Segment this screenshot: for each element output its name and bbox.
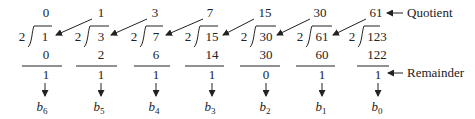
division-bracket: [84, 26, 109, 47]
carry-arrow-icon: [223, 19, 254, 35]
divisor: 2: [75, 29, 82, 44]
remainder: 1: [209, 67, 216, 82]
quotient: 0: [43, 5, 50, 20]
dividend: 7: [153, 29, 160, 44]
division-step-4: 15 2 30 30 0 b2: [240, 5, 280, 116]
bit-label: b3: [205, 99, 217, 116]
division-bracket: [28, 26, 52, 47]
binary-division-diagram: 0 2 1 0 1 b6 1 2 3 2 1 b5 3 2 7 6 1 b4 7…: [0, 0, 475, 119]
dividend: 30: [260, 29, 273, 44]
product: 6: [153, 47, 160, 62]
carry-arrow-icon: [277, 19, 310, 35]
bit-label: b1: [316, 99, 327, 116]
divisor: 2: [185, 29, 192, 44]
quotient: 15: [259, 5, 272, 20]
dividend: 61: [316, 29, 329, 44]
bit-label: b2: [260, 99, 271, 116]
quotient-label: Quotient: [407, 5, 453, 20]
remainder: 1: [319, 67, 326, 82]
divisor: 2: [297, 29, 304, 44]
division-step-2: 3 2 7 6 1 b4: [131, 5, 170, 116]
division-step-1: 1 2 3 2 1 b5: [75, 5, 117, 116]
bit-label: b0: [372, 99, 384, 116]
remainder: 1: [375, 67, 382, 82]
bit-label: b4: [149, 99, 161, 116]
quotient: 3: [152, 5, 159, 20]
quotient: 7: [207, 5, 214, 20]
remainder: 1: [153, 67, 160, 82]
division-bracket: [140, 26, 163, 47]
divisor: 2: [241, 29, 248, 44]
carry-arrow-icon: [111, 19, 147, 35]
division-step-5: 30 2 61 60 1 b1: [296, 5, 335, 116]
divisor: 2: [19, 29, 26, 44]
remainder: 1: [98, 67, 105, 82]
dividend: 123: [367, 29, 387, 44]
remainder: 1: [43, 67, 50, 82]
quotient: 30: [314, 5, 327, 20]
dividend: 1: [42, 29, 49, 44]
dividend: 15: [206, 29, 219, 44]
bit-label: b6: [37, 99, 49, 116]
bit-label: b5: [94, 99, 106, 116]
product: 2: [98, 47, 105, 62]
divisor: 2: [349, 29, 356, 44]
dividend: 3: [98, 29, 105, 44]
quotient: 1: [98, 5, 105, 20]
product: 14: [206, 47, 220, 62]
product: 30: [260, 47, 273, 62]
division-step-0: 0 2 1 0 1 b6: [19, 5, 62, 116]
remainder: 0: [263, 67, 270, 82]
product: 60: [316, 47, 329, 62]
product: 122: [367, 47, 387, 62]
division-step-6: 61 2 123 122 1 b0: [349, 5, 389, 116]
quotient: 61: [370, 5, 383, 20]
product: 0: [43, 47, 50, 62]
remainder-label: Remainder: [407, 65, 465, 80]
divisor: 2: [131, 29, 138, 44]
division-step-3: 7 2 15 14 1 b3: [185, 5, 224, 116]
